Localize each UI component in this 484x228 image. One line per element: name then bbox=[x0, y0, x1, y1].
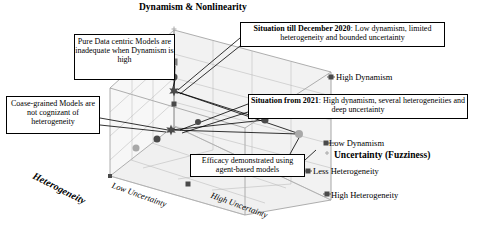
data-marker bbox=[295, 130, 303, 138]
callout-situation-from-2021: Situation from 2021: High dynamism, seve… bbox=[248, 94, 468, 119]
callout-coarse-grained-models: Coase-grained Models are not cognizant o… bbox=[6, 96, 100, 134]
data-marker bbox=[166, 125, 176, 136]
data-marker bbox=[169, 86, 179, 97]
data-marker bbox=[172, 27, 177, 32]
callout-2020-bold: Situation till December 2020 bbox=[254, 24, 351, 33]
data-marker bbox=[133, 145, 140, 152]
data-marker bbox=[154, 136, 161, 143]
diagram-canvas: Dynamism & Nonlinearity High Dynamism Lo… bbox=[0, 0, 484, 228]
data-marker bbox=[324, 141, 329, 146]
callout-situation-till-2020: Situation till December 2020: Low dynami… bbox=[240, 22, 445, 47]
data-marker bbox=[195, 119, 201, 125]
data-marker bbox=[108, 174, 112, 178]
callout-efficacy-agent-based: Efficacy demonstrated using agent-based … bbox=[190, 154, 305, 177]
data-marker bbox=[172, 102, 177, 107]
data-marker bbox=[306, 169, 311, 174]
callout-2021-bold: Situation from 2021 bbox=[251, 96, 319, 105]
callout-pure-data-models: Pure Data centric Models are inadequate … bbox=[74, 34, 175, 80]
data-marker bbox=[325, 151, 329, 155]
data-marker bbox=[186, 182, 191, 187]
data-marker bbox=[329, 75, 334, 80]
callout-2021-text: : High dynamism, several heterogeneities… bbox=[319, 96, 465, 114]
data-marker bbox=[325, 192, 330, 197]
